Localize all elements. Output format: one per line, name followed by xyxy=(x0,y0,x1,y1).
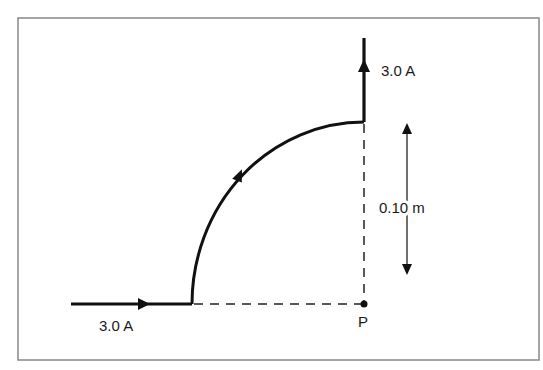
magnetic-field-wire-diagram: 3.0 A 3.0 A 0.10 m P xyxy=(0,0,543,370)
distance-arrow-down-icon xyxy=(402,264,412,275)
bottom-current-arrow-icon xyxy=(138,298,150,310)
arc-wire xyxy=(192,122,364,304)
diagram-frame xyxy=(18,18,539,360)
distance-label: 0.10 m xyxy=(379,199,425,216)
point-p-label: P xyxy=(358,313,368,330)
top-current-arrow-icon xyxy=(358,59,370,72)
distance-arrow-up-icon xyxy=(402,123,412,134)
top-current-label: 3.0 A xyxy=(381,62,415,79)
point-p-dot xyxy=(361,301,368,308)
bottom-current-label: 3.0 A xyxy=(99,317,133,334)
